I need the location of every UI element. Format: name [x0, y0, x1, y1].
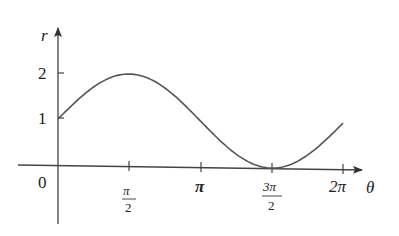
origin-label: 0 [38, 173, 47, 192]
x-tick-label-pi-half-den: 2 [125, 200, 132, 215]
y-axis-label: r [41, 26, 48, 45]
x-tick-label-3pi-half-den: 2 [268, 198, 275, 213]
x-axis [18, 165, 362, 170]
x-tick-label-pi-half-num: π [123, 183, 130, 198]
x-tick-label-2pi: 2π [329, 177, 347, 196]
y-tick-label-2: 2 [38, 64, 47, 83]
x-axis-label: θ [366, 178, 374, 197]
polar-rect-graph: r 2 1 0 π 2 π 3π 2 2π θ [0, 0, 399, 236]
x-tick-label-3pi-half-num: 3π [262, 179, 277, 194]
curve-r-1-plus-sin-theta [58, 74, 343, 168]
x-tick-label-pi: π [195, 177, 205, 196]
y-tick-label-1: 1 [38, 109, 47, 128]
